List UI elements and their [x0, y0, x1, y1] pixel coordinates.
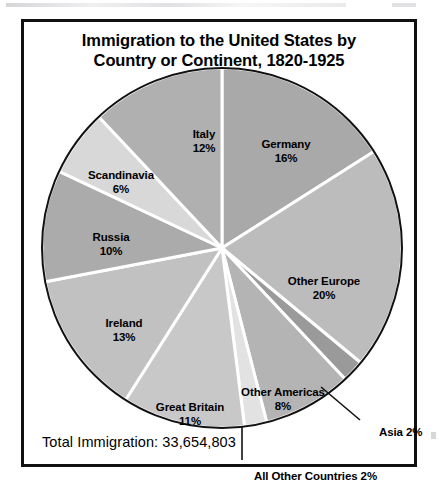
slice-label-name-great-britain: Great Britain	[156, 401, 224, 413]
slice-label-percent-great-britain: 11%	[156, 414, 224, 428]
slice-label-percent-other-europe: 20%	[288, 288, 360, 302]
callout-label-asia: Asia 2%	[379, 426, 422, 438]
slice-label-percent-russia: 10%	[92, 244, 129, 258]
page-edge-speck	[431, 432, 436, 439]
callout-label-all-other-countries: All Other Countries 2%	[254, 470, 377, 482]
slice-label-germany: Germany16%	[261, 137, 310, 165]
slice-label-percent-scandinavia: 6%	[88, 182, 154, 196]
slice-label-percent-other-americas: 8%	[241, 399, 325, 413]
slice-label-other-europe: Other Europe20%	[288, 274, 360, 302]
slice-label-russia: Russia10%	[92, 230, 129, 258]
slice-label-other-americas: Other Americas8%	[241, 385, 325, 413]
scan-artifact-strip	[0, 0, 439, 12]
slice-label-name-ireland: Ireland	[105, 317, 142, 329]
scan-smudge-right	[392, 3, 416, 7]
slice-label-name-other-europe: Other Europe	[288, 275, 360, 287]
slice-label-great-britain: Great Britain11%	[156, 400, 224, 428]
slice-label-percent-germany: 16%	[261, 151, 310, 165]
slice-label-name-scandinavia: Scandinavia	[88, 169, 154, 181]
slice-label-ireland: Ireland13%	[105, 316, 142, 344]
scan-smudge	[6, 3, 346, 7]
total-immigration-label: Total Immigration: 33,654,803	[42, 434, 236, 450]
slice-label-name-other-americas: Other Americas	[241, 386, 325, 398]
asia-leader-line	[321, 387, 360, 420]
slice-label-name-germany: Germany	[261, 138, 310, 150]
slice-label-name-italy: Italy	[193, 128, 216, 140]
slice-label-percent-italy: 12%	[193, 141, 216, 155]
chart-frame: Immigration to the United States by Coun…	[21, 19, 417, 467]
slice-label-italy: Italy12%	[193, 127, 216, 155]
slice-label-percent-ireland: 13%	[105, 330, 142, 344]
slice-label-name-russia: Russia	[92, 231, 129, 243]
slice-label-scandinavia: Scandinavia6%	[88, 168, 154, 196]
